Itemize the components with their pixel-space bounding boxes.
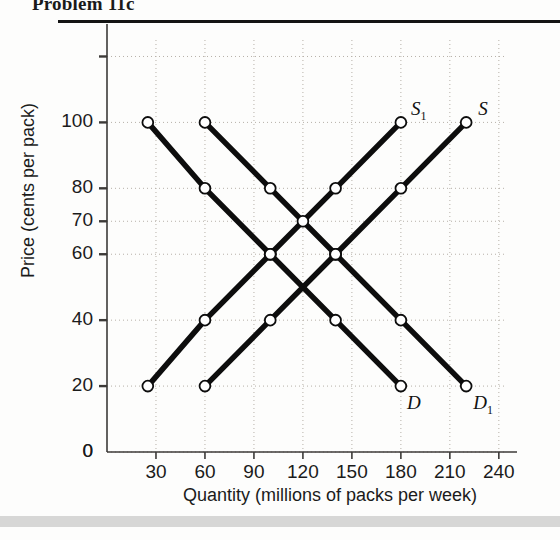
x-axis-tick-label: 120 [280, 461, 326, 483]
data-point-marker [395, 315, 406, 326]
data-point-marker [395, 183, 406, 194]
data-point-marker [330, 315, 341, 326]
data-point-marker [461, 117, 472, 128]
x-axis-tick-label: 60 [182, 461, 228, 483]
intersection-marker [330, 249, 341, 260]
axis-origin-label: 0 [41, 440, 93, 462]
gridlines [107, 40, 507, 452]
intersection-marker [265, 249, 276, 260]
data-point-marker [265, 183, 276, 194]
data-point-marker [200, 183, 211, 194]
data-point-marker [142, 381, 153, 392]
chart-plot-area [107, 40, 507, 452]
curve-label-d: D [407, 392, 421, 414]
title-divider [58, 20, 560, 23]
data-point-marker [265, 315, 276, 326]
x-axis-tick-label: 90 [231, 461, 277, 483]
intersection-marker [298, 216, 309, 227]
axis-lines [99, 24, 517, 459]
curve-label-s1: S1 [411, 98, 427, 124]
y-axis-tick-label: 70 [41, 209, 93, 231]
page-footer-band [0, 516, 560, 527]
figure-container: Problem 11c Price (cents per pack) Quant… [0, 0, 560, 540]
data-point-marker [200, 117, 211, 128]
y-axis-label: Price (cents per pack) [18, 51, 39, 331]
curve-label-d1: D1 [473, 392, 493, 418]
y-axis-tick-label: 20 [41, 374, 93, 396]
y-axis-tick-label: 80 [41, 176, 93, 198]
chart-svg [107, 40, 507, 452]
curve-label-s: S [478, 98, 488, 120]
y-axis-tick-label: 40 [41, 308, 93, 330]
data-point-marker [142, 117, 153, 128]
data-point-marker [395, 381, 406, 392]
data-point-marker [395, 117, 406, 128]
x-axis-tick-label: 30 [133, 461, 179, 483]
x-axis-tick-label: 210 [427, 461, 473, 483]
data-point-marker [461, 381, 472, 392]
data-point-marker [200, 381, 211, 392]
figure-title: Problem 11c [32, 0, 135, 15]
x-axis-tick-label: 150 [329, 461, 375, 483]
x-axis-tick-label: 180 [378, 461, 424, 483]
x-axis-tick-label: 240 [476, 461, 522, 483]
y-axis-tick-label: 100 [41, 110, 93, 132]
y-axis-tick-label: 60 [41, 242, 93, 264]
data-point-marker [200, 315, 211, 326]
x-axis-label: Quantity (millions of packs per week) [110, 485, 550, 506]
data-point-marker [330, 183, 341, 194]
